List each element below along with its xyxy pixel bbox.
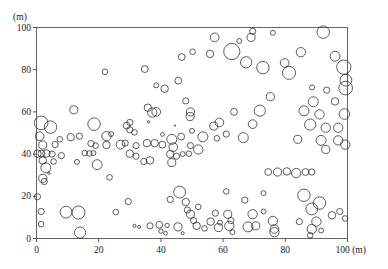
data-point xyxy=(164,231,168,235)
data-point xyxy=(38,208,44,214)
data-point xyxy=(58,152,64,158)
data-point xyxy=(214,135,220,141)
data-point xyxy=(190,49,196,55)
data-point xyxy=(116,140,125,149)
data-point xyxy=(178,54,185,61)
data-point xyxy=(307,224,316,233)
data-point xyxy=(175,77,182,84)
data-point xyxy=(91,151,96,156)
data-point xyxy=(225,221,234,230)
data-point xyxy=(190,128,195,133)
data-point xyxy=(146,157,153,164)
data-point xyxy=(174,223,182,231)
data-point xyxy=(67,133,74,140)
data-point xyxy=(161,133,165,137)
data-point xyxy=(125,198,131,204)
data-point xyxy=(165,223,169,227)
data-point xyxy=(41,163,51,173)
data-point xyxy=(132,130,138,136)
data-point xyxy=(168,159,176,167)
data-point xyxy=(182,198,189,205)
data-point xyxy=(143,139,150,146)
data-point xyxy=(113,209,119,215)
x-tick-label: 0 xyxy=(17,245,57,255)
data-point xyxy=(215,118,224,127)
data-point xyxy=(147,223,153,229)
data-point xyxy=(186,151,192,157)
data-points xyxy=(34,26,353,238)
y-tick-label: 60 xyxy=(0,107,31,117)
data-point xyxy=(161,85,168,92)
data-point xyxy=(126,150,133,157)
data-point xyxy=(167,150,174,157)
data-point xyxy=(231,108,238,115)
data-point xyxy=(257,61,269,73)
y-tick-label: 40 xyxy=(0,149,31,159)
data-point xyxy=(133,153,139,159)
data-point xyxy=(341,140,350,149)
data-point xyxy=(315,110,324,119)
data-point xyxy=(283,168,290,175)
data-point xyxy=(224,43,240,59)
data-point xyxy=(342,216,348,222)
data-point xyxy=(206,50,213,57)
data-point xyxy=(313,197,325,209)
data-point xyxy=(310,85,315,90)
data-point xyxy=(74,159,79,164)
data-point xyxy=(340,74,352,86)
data-point xyxy=(38,221,44,227)
data-point xyxy=(339,81,353,95)
data-point xyxy=(237,39,242,44)
data-point xyxy=(194,145,203,154)
data-point xyxy=(103,141,110,148)
data-point xyxy=(238,133,248,143)
data-point xyxy=(167,196,173,202)
data-point xyxy=(187,143,193,149)
data-point xyxy=(306,203,318,215)
y-tick-label: 100 xyxy=(0,23,31,33)
data-point xyxy=(202,226,208,232)
data-point xyxy=(88,118,100,130)
data-point xyxy=(322,145,330,153)
data-point xyxy=(273,168,281,176)
y-tick-label: 20 xyxy=(0,191,31,201)
data-point xyxy=(52,142,58,148)
data-point xyxy=(151,139,158,146)
data-point xyxy=(296,219,302,225)
data-point xyxy=(283,66,296,79)
data-point xyxy=(268,216,277,225)
data-point xyxy=(321,123,330,132)
x-tick-label: 60 xyxy=(203,245,243,255)
data-point xyxy=(51,159,57,165)
data-point xyxy=(183,98,189,104)
data-point xyxy=(243,222,253,232)
data-point xyxy=(241,57,252,68)
data-point xyxy=(265,169,272,176)
data-point xyxy=(186,113,194,121)
data-point xyxy=(159,229,163,233)
data-point xyxy=(141,66,148,73)
data-point xyxy=(138,225,141,228)
data-point xyxy=(181,232,184,235)
data-point xyxy=(247,33,255,41)
data-point xyxy=(210,33,219,42)
y-tick-label: 0 xyxy=(0,234,31,244)
y-tick-label: 80 xyxy=(0,65,31,75)
y-axis-unit-label: (m) xyxy=(13,12,27,22)
data-point xyxy=(48,172,50,174)
data-point xyxy=(174,125,175,126)
data-point xyxy=(319,228,324,233)
data-point xyxy=(156,221,163,228)
data-point xyxy=(133,224,136,227)
data-point xyxy=(308,97,318,107)
data-point xyxy=(261,191,266,196)
plot-border xyxy=(37,28,348,239)
data-point xyxy=(193,222,200,229)
data-point xyxy=(339,109,350,120)
data-point xyxy=(224,210,232,218)
data-point xyxy=(154,83,159,88)
data-point xyxy=(261,209,266,214)
data-point xyxy=(39,141,47,149)
data-point xyxy=(334,123,343,132)
data-point xyxy=(122,140,128,146)
